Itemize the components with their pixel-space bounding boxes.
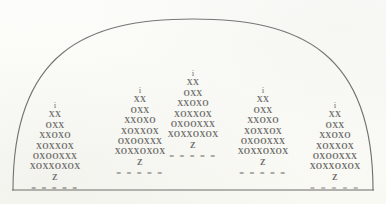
pyramid-row-1: i — [168, 68, 219, 78]
pyramid-row-3: OXX — [310, 121, 361, 131]
pyramid-row-8: Z — [115, 158, 166, 168]
pyramid-row-4: XXOXO — [168, 99, 219, 109]
pyramid-row-8: Z — [238, 158, 289, 168]
pyramid-row-6: OXOOXXX — [238, 137, 289, 147]
pyramid-row-8: Z — [168, 141, 219, 151]
pyramid-row-2: XX — [168, 78, 219, 88]
pyramid-row-3: OXX — [238, 106, 289, 116]
pyramid-row-6: OXOOXXX — [30, 152, 81, 162]
figure-canvas: iXXOXXXXOXOXOXXOXOXOOXXXXOXXOXOXZ= = = =… — [0, 0, 386, 204]
pyramid-row-2: XX — [30, 110, 81, 120]
character-pyramid-1: iXXOXXXXOXOXOXXOXOXOOXXXXOXXOXOXZ= = = =… — [30, 100, 81, 194]
pyramid-row-9: = = = = = — [168, 151, 219, 161]
pyramid-row-5: XOXXOX — [238, 127, 289, 137]
pyramid-row-5: XOXXOX — [115, 127, 166, 137]
character-pyramid-5: iXXOXXXXOXOXOXXOXOXOOXXXXOXXOXOXZ= = = =… — [310, 100, 361, 194]
pyramid-row-7: XOXXOXOX — [310, 162, 361, 172]
pyramid-row-4: XXOXO — [238, 116, 289, 126]
pyramid-row-9: = = = = = — [30, 183, 81, 193]
pyramid-row-2: XX — [115, 95, 166, 105]
pyramid-row-7: XOXXOXOX — [30, 162, 81, 172]
pyramid-row-7: XOXXOXOX — [168, 130, 219, 140]
pyramid-row-2: XX — [238, 95, 289, 105]
pyramid-row-4: XXOXO — [115, 116, 166, 126]
pyramid-row-1: i — [115, 85, 166, 95]
pyramid-row-1: i — [30, 100, 81, 110]
pyramid-row-6: OXOOXXX — [310, 152, 361, 162]
character-pyramid-2: iXXOXXXXOXOXOXXOXOXOOXXXXOXXOXOXZ= = = =… — [115, 85, 166, 179]
pyramid-row-7: XOXXOXOX — [115, 147, 166, 157]
pyramid-row-5: XOXXOX — [310, 142, 361, 152]
pyramid-row-8: Z — [310, 173, 361, 183]
pyramid-row-3: OXX — [115, 106, 166, 116]
pyramid-row-9: = = = = = — [310, 183, 361, 193]
pyramid-row-1: i — [238, 85, 289, 95]
pyramid-row-2: XX — [310, 110, 361, 120]
pyramid-row-4: XXOXO — [310, 131, 361, 141]
pyramid-row-6: OXOOXXX — [168, 120, 219, 130]
pyramid-row-5: XOXXOX — [30, 142, 81, 152]
pyramid-row-7: XOXXOXOX — [238, 147, 289, 157]
pyramid-row-1: i — [310, 100, 361, 110]
pyramid-row-3: OXX — [168, 89, 219, 99]
pyramid-row-4: XXOXO — [30, 131, 81, 141]
pyramid-row-3: OXX — [30, 121, 81, 131]
character-pyramid-3: iXXOXXXXOXOXOXXOXOXOOXXXXOXXOXOXZ= = = =… — [168, 68, 219, 162]
pyramid-row-6: OXOOXXX — [115, 137, 166, 147]
pyramid-row-5: XOXXOX — [168, 110, 219, 120]
pyramid-row-9: = = = = = — [238, 168, 289, 178]
pyramid-row-8: Z — [30, 173, 81, 183]
character-pyramid-4: iXXOXXXXOXOXOXXOXOXOOXXXXOXXOXOXZ= = = =… — [238, 85, 289, 179]
pyramid-row-9: = = = = = — [115, 168, 166, 178]
